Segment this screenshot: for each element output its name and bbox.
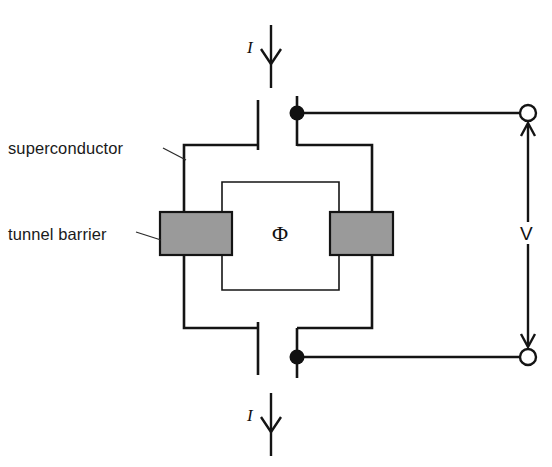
superconductor-outer-right-bottom <box>297 255 372 328</box>
superconductor-outer-left-bottom <box>184 255 258 328</box>
voltage-label: V <box>520 223 533 244</box>
tunnel-barrier-label: tunnel barrier <box>8 225 107 243</box>
tunnel-barrier-right <box>330 212 393 255</box>
superconductor-leader-line <box>163 148 186 160</box>
tunnel-barrier-leader-line <box>136 232 161 240</box>
flux-symbol: Φ <box>272 221 288 246</box>
superconductor-outer-left-top <box>184 145 258 213</box>
superconductor-inner-bottom <box>222 255 339 290</box>
tunnel-barrier-left <box>160 212 232 255</box>
superconductor-outer-right-top <box>297 145 372 213</box>
current-label-bottom: I <box>246 406 254 425</box>
voltage-terminal-bottom[interactable] <box>520 349 536 365</box>
current-arrow-top <box>261 25 281 88</box>
current-label-top: I <box>246 38 254 57</box>
superconductor-inner-top <box>222 182 339 213</box>
junction-node-top <box>290 106 305 121</box>
junction-node-bottom <box>290 350 305 365</box>
superconductor-label: superconductor <box>8 139 124 157</box>
voltage-terminal-top[interactable] <box>520 105 536 121</box>
current-arrow-bottom <box>261 393 281 456</box>
squid-circuit-figure: I I <box>0 0 552 467</box>
circuit-diagram-canvas: I I <box>0 0 552 467</box>
